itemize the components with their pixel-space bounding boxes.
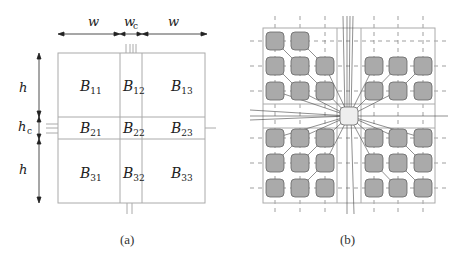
svg-text:w: w	[168, 14, 179, 29]
block-b31: B31	[79, 165, 102, 183]
block-labels: B11 B12 B13 B21 B22 B23 B31 B32 B33	[79, 78, 193, 183]
svg-text:c: c	[133, 21, 138, 31]
block-b32: B32	[122, 165, 145, 183]
caption-a: (a)	[120, 232, 134, 247]
svg-text:h: h	[18, 119, 26, 134]
block-b33: B33	[170, 165, 193, 183]
center-node	[340, 107, 358, 125]
svg-text:w: w	[88, 14, 99, 29]
block-b11: B11	[79, 78, 102, 96]
svg-text:c: c	[27, 126, 32, 136]
caption-b: (b)	[340, 232, 355, 247]
figure-b	[250, 16, 448, 214]
diagram-canvas: w w c w h h c h B11 B12 B13 B21 B22 B23 …	[0, 0, 464, 263]
block-b21: B21	[79, 120, 102, 138]
block-b13: B13	[170, 78, 193, 96]
svg-text:h: h	[19, 80, 27, 95]
block-b12: B12	[122, 78, 145, 96]
block-b23: B23	[170, 120, 193, 138]
block-b22: B22	[122, 120, 145, 138]
svg-text:h: h	[19, 162, 27, 177]
